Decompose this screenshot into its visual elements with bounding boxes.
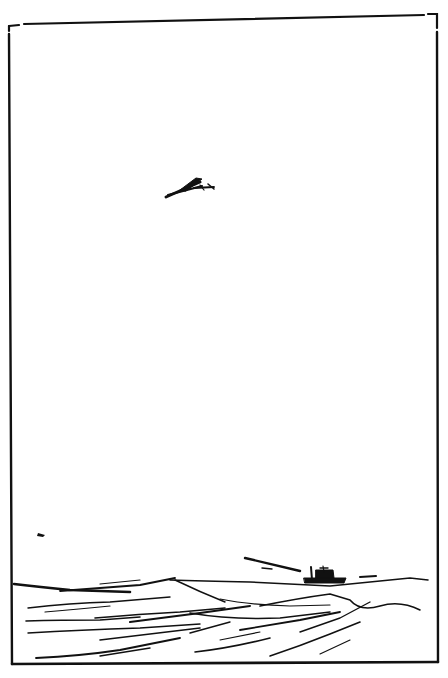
bird-mark [37,533,45,537]
ink-illustration [0,0,448,678]
ship [245,558,376,583]
airplane [166,178,214,197]
sea-waves [14,578,428,658]
frame-border [9,14,438,664]
